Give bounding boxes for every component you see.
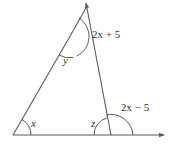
- triangle-diagram: x y z 2x + 5 2x − 5: [0, 0, 171, 150]
- label-y: y: [62, 54, 68, 66]
- angle-2x-plus-5-arc: [77, 18, 89, 56]
- label-z: z: [90, 117, 96, 129]
- label-x: x: [30, 117, 36, 129]
- angle-x-arc: [22, 120, 31, 136]
- angle-z-arc: [94, 118, 107, 135]
- label-2x-minus-5: 2x − 5: [121, 101, 150, 113]
- label-2x-plus-5: 2x + 5: [92, 28, 121, 40]
- side-left: [13, 38, 69, 135]
- side-left-extension: [69, 8, 86, 38]
